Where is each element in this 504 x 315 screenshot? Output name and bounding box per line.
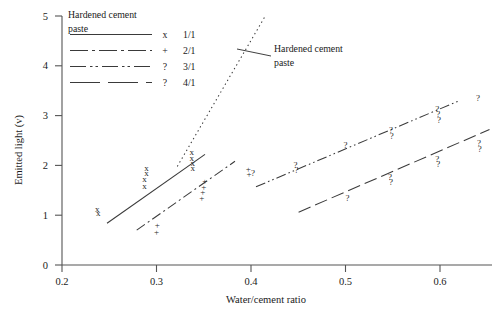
legend-item-1-1[interactable]: x 1/1 <box>70 29 196 40</box>
legend-item-2-1[interactable]: + 2/1 <box>70 45 196 56</box>
legend-marker-4-1: ? <box>163 77 167 88</box>
y-tick-marks <box>55 16 62 265</box>
data-points-1-1: x x x x x x x x x x <box>95 147 195 218</box>
x-tick-label-2: 0.4 <box>244 276 258 287</box>
y-axis-title: Emitted light (v) <box>13 115 25 185</box>
svg-text:?: ? <box>476 93 480 103</box>
legend-marker-1-1: x <box>163 29 168 40</box>
legend-label-2-1: 2/1 <box>183 45 196 56</box>
legend-title-line-1: Hardened cement <box>68 9 137 20</box>
legend-label-1-1: 1/1 <box>183 29 196 40</box>
y-tick-label-4: 4 <box>43 60 49 71</box>
fit-line-2-1 <box>137 161 235 230</box>
legend: Hardened cement paste x 1/1 + 2/1 ? 3/1 … <box>68 9 196 88</box>
svg-text:x: x <box>190 163 195 173</box>
y-tick-label-2: 2 <box>43 160 48 171</box>
svg-text:?: ? <box>295 165 299 175</box>
y-tick-label-0: 0 <box>43 260 48 271</box>
svg-text:x: x <box>144 163 149 173</box>
annotation-line-2: paste <box>274 57 295 68</box>
fit-line-4-1 <box>299 130 490 213</box>
svg-text:?: ? <box>345 193 349 203</box>
data-points-4-1: ? ? ? ? ? ? ? <box>345 138 481 203</box>
svg-text:?: ? <box>390 131 394 141</box>
svg-text:+: + <box>155 220 160 230</box>
svg-text:?: ? <box>437 115 441 125</box>
legend-label-4-1: 4/1 <box>183 77 196 88</box>
annotation-line-1: Hardened cement <box>274 43 343 54</box>
svg-text:?: ? <box>436 159 440 169</box>
annotation-leader-line <box>237 49 271 56</box>
svg-text:+: + <box>202 176 207 186</box>
svg-text:?: ? <box>478 144 482 154</box>
legend-item-3-1[interactable]: ? 3/1 <box>70 61 196 72</box>
data-points-3-1: ? ? ? ? ? ? ? ? ? ? <box>251 93 480 178</box>
legend-title-line-2: paste <box>68 23 89 34</box>
data-points-2-1: + + + + + + + + <box>154 164 252 237</box>
legend-item-4-1[interactable]: ? 4/1 <box>70 77 196 88</box>
legend-marker-3-1: ? <box>163 61 167 72</box>
x-axis-title: Water/cement ratio <box>226 294 306 305</box>
x-tick-label-1: 0.3 <box>150 276 163 287</box>
svg-text:x: x <box>96 208 101 218</box>
x-tick-label-3: 0.5 <box>339 276 352 287</box>
x-tick-marks <box>62 265 440 272</box>
x-tick-label-4: 0.6 <box>433 276 446 287</box>
svg-text:?: ? <box>344 140 348 150</box>
fit-line-3-1 <box>256 101 459 187</box>
y-tick-label-3: 3 <box>43 110 48 121</box>
x-tick-label-0: 0.2 <box>55 276 68 287</box>
chart-root: 0 1 2 3 4 5 0.2 0.3 0.4 0.5 0.6 Water/ce… <box>0 0 504 315</box>
legend-label-3-1: 3/1 <box>183 61 196 72</box>
annotation-group: Hardened cement paste <box>237 43 343 68</box>
svg-text:?: ? <box>251 168 255 178</box>
chart-svg: 0 1 2 3 4 5 0.2 0.3 0.4 0.5 0.6 Water/ce… <box>0 0 504 315</box>
y-tick-label-1: 1 <box>43 210 48 221</box>
svg-text:?: ? <box>389 177 393 187</box>
legend-marker-2-1: + <box>162 45 168 56</box>
axes-group: 0 1 2 3 4 5 0.2 0.3 0.4 0.5 0.6 Water/ce… <box>13 11 492 306</box>
y-tick-label-5: 5 <box>43 11 48 22</box>
